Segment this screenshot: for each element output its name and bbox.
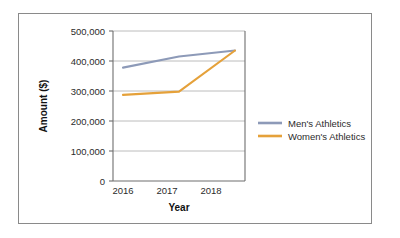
x-tick-label-2018: 2018 — [200, 185, 221, 196]
y-tick-label-400000: 400,000 — [71, 56, 105, 67]
plot-axes — [113, 31, 245, 181]
x-axis-title: Year — [168, 202, 189, 213]
y-tick-label-100000: 100,000 — [71, 146, 105, 157]
legend-label-womens-athletics: Women's Athletics — [288, 131, 365, 142]
legend: Men's Athletics Women's Athletics — [258, 118, 365, 142]
line-chart: 500,000 400,000 300,000 200,000 100,000 … — [0, 0, 400, 238]
legend-label-mens-athletics: Men's Athletics — [288, 118, 351, 129]
x-tick-label-2016: 2016 — [112, 185, 133, 196]
y-tick-marks — [109, 31, 113, 181]
y-tick-labels: 500,000 400,000 300,000 200,000 100,000 … — [71, 26, 105, 187]
data-series — [123, 51, 235, 95]
y-tick-label-300000: 300,000 — [71, 86, 105, 97]
y-tick-label-0: 0 — [100, 176, 105, 187]
y-tick-label-500000: 500,000 — [71, 26, 105, 37]
y-tick-label-200000: 200,000 — [71, 116, 105, 127]
series-mens-athletics — [123, 51, 235, 68]
x-tick-label-2017: 2017 — [156, 185, 177, 196]
x-tick-labels: 2016 2017 2018 — [112, 185, 221, 196]
y-axis-title: Amount ($) — [38, 80, 49, 133]
